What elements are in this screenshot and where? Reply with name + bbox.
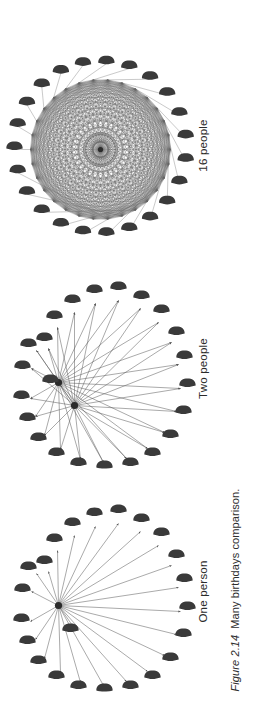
figure-caption: Figure 2.14Many birthdays comparison. bbox=[228, 488, 240, 691]
diagram-sixteen-people bbox=[0, 45, 196, 245]
panel-sixteen-people: 16 people bbox=[0, 45, 196, 245]
person-ring-two-people bbox=[13, 281, 195, 468]
panel-two-people: Two people bbox=[0, 268, 196, 468]
figure-stage: One person bbox=[0, 0, 255, 713]
panel-one-person: One person bbox=[0, 491, 196, 691]
edge-group-one-person bbox=[30, 523, 180, 685]
panel-label-two-people: Two people bbox=[196, 268, 208, 468]
panel-label-sixteen-people: 16 people bbox=[196, 45, 208, 245]
panel-label-one-person: One person bbox=[196, 491, 208, 691]
figure-caption-text: Many birthdays comparison. bbox=[228, 488, 240, 628]
person-ring-one-person bbox=[13, 504, 195, 691]
panel-row: One person bbox=[0, 0, 210, 713]
diagram-two-people bbox=[0, 268, 196, 468]
diagram-one-person bbox=[0, 491, 196, 691]
figure-number: Figure 2.14 bbox=[228, 634, 240, 691]
figure-page: One person bbox=[0, 0, 255, 713]
